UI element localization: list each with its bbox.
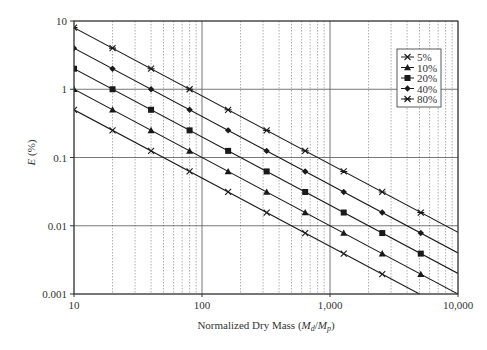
y-axis-label: E (%) xyxy=(25,139,38,166)
x-tick-label: 10,000 xyxy=(443,299,474,311)
x-axis-ticks: 101001,00010,000 xyxy=(69,294,474,311)
x-tick-label: 100 xyxy=(194,299,211,311)
y-tick-label: 1 xyxy=(62,83,68,95)
legend-label: 80% xyxy=(417,93,437,105)
y-tick-label: 0.1 xyxy=(53,152,67,164)
y-tick-label: 10 xyxy=(56,15,68,27)
x-tick-label: 1,000 xyxy=(318,299,343,311)
x-axis-label: Normalized Dry Mass (Md/Mp) xyxy=(197,319,335,333)
x-tick-label: 10 xyxy=(69,299,81,311)
y-tick-label: 0.01 xyxy=(48,220,67,232)
legend: 5%10%20%40%80% xyxy=(397,49,441,107)
y-axis-ticks: 0.0010.010.1110 xyxy=(42,15,74,300)
series-10pct xyxy=(71,86,459,294)
y-tick-label: 0.001 xyxy=(42,288,67,300)
chart: 101001,00010,000 0.0010.010.1110 Normali… xyxy=(0,0,487,350)
series-5pct xyxy=(71,107,458,315)
